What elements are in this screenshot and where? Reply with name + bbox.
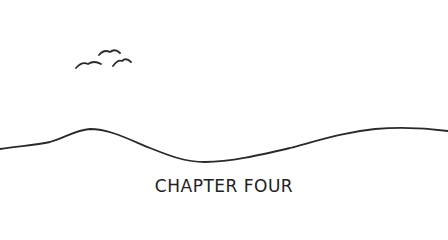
bird-right-icon	[113, 59, 131, 66]
hill-line	[0, 128, 448, 162]
bird-left-icon	[76, 62, 101, 68]
bird-top-icon	[99, 50, 120, 55]
chapter-title: CHAPTER FOUR	[0, 176, 448, 197]
birds-icon	[76, 50, 131, 68]
